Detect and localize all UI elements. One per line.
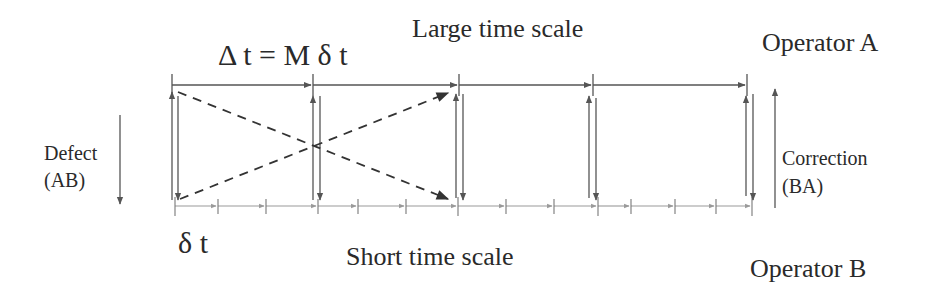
side-arrows [120, 89, 775, 208]
large-time-axis [172, 74, 747, 96]
exchange-arrows [172, 92, 753, 200]
time-scale-diagram [0, 0, 948, 298]
